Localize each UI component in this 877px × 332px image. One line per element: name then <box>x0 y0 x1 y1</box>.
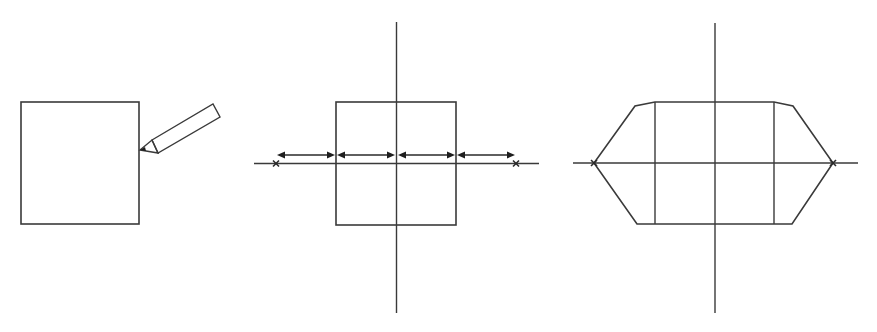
arrow-segment-2 <box>337 152 395 159</box>
arrow-segment-1 <box>277 152 335 159</box>
square <box>21 102 139 224</box>
pencil-icon <box>140 104 220 153</box>
panel-1-draw-square <box>21 102 220 224</box>
arrow-segment-4 <box>457 152 515 159</box>
panel-2-measure <box>254 22 539 313</box>
arrow-segment-3 <box>398 152 455 159</box>
panel-3-connect <box>573 23 858 313</box>
diagram-stage: Three-panel geometric construction: a sq… <box>0 0 877 332</box>
